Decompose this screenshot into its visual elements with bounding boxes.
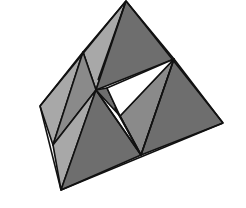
- sierpinski-tetrahedron-figure: [0, 0, 246, 208]
